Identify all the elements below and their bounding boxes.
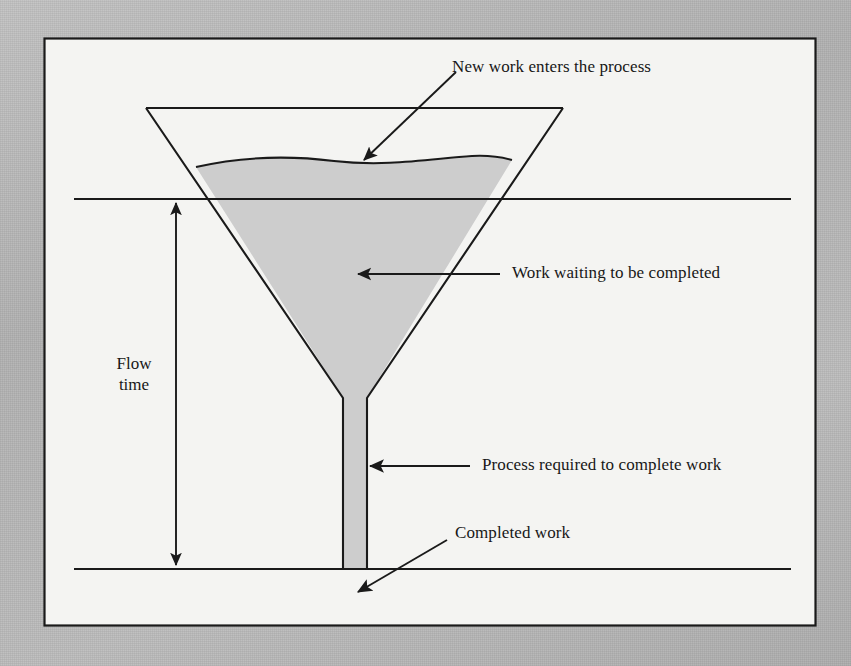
label-flow-time: Flow time xyxy=(103,353,165,395)
funnel-diagram-svg xyxy=(0,0,851,666)
funnel-neck-fill xyxy=(343,396,367,570)
label-process-required-to-complete-work: Process required to complete work xyxy=(482,455,721,475)
label-flow-time-line1: Flow xyxy=(103,353,165,374)
figure-page: New work enters the process Work waiting… xyxy=(0,0,851,666)
figure-panel xyxy=(45,39,816,626)
label-new-work-enters-the-process: New work enters the process xyxy=(452,57,651,77)
label-completed-work: Completed work xyxy=(455,523,570,543)
label-work-waiting-to-be-completed: Work waiting to be completed xyxy=(512,263,720,283)
label-flow-time-line2: time xyxy=(103,374,165,395)
